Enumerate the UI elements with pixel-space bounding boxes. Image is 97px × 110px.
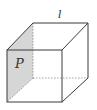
line-label: l [58,8,62,21]
cube-svg: l P [0,0,97,110]
plane-label: P [14,56,24,71]
cube-diagram: l P [0,0,97,110]
